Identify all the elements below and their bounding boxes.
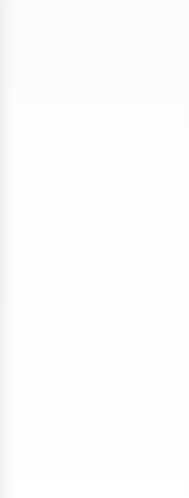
document-text-layer: markers.Sew side and Sleeve seams.Weave … bbox=[0, 0, 189, 498]
text-line-abbr-sts: st(s) = stitch(es) bbox=[1, 444, 96, 460]
text-line-abbr-rem: rem = remain(ing)(s) bbox=[0, 322, 122, 338]
text-line-abbr-beg: beg = begin(ning)(s) bbox=[0, 197, 118, 213]
scanned-document-page: markers.Sew side and Sleeve seams.Weave … bbox=[0, 0, 189, 498]
text-line-abbr-k: k = knit bbox=[0, 239, 43, 255]
text-line-abbr-rep: rep = repeat bbox=[0, 363, 69, 379]
text-line-finishing-weave: Weave in ends. bbox=[0, 118, 85, 134]
text-line-finishing-seams: Sew side and Sleeve seams. bbox=[0, 77, 160, 93]
text-line-finishing-markers: markers. bbox=[0, 36, 47, 52]
text-line-abbreviations-head: Abbreviations: bbox=[0, 157, 91, 173]
text-line-abbr-rs: RS = right side bbox=[2, 404, 91, 420]
text-line-abbr-stst: St st = Stockinette stitch bbox=[3, 479, 147, 495]
text-line-abbr-p: p = purl bbox=[0, 281, 44, 297]
